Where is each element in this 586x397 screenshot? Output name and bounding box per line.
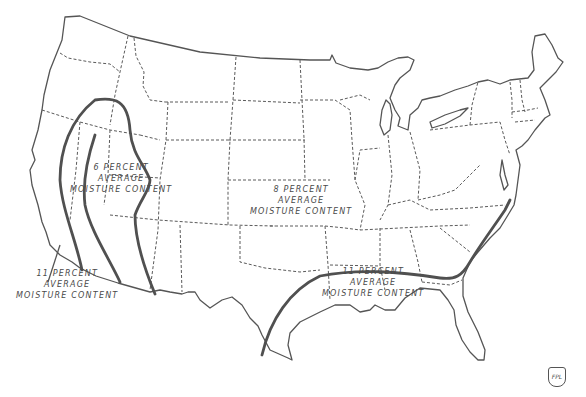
lake-michigan: [380, 100, 392, 135]
zone-boundary-coast: [84, 135, 120, 282]
zone-label-8-percent: 8 PERCENT AVERAGE MOISTURE CONTENT: [250, 184, 352, 217]
fpl-logo: FPL: [548, 367, 566, 387]
chesapeake: [500, 160, 508, 190]
zone-label-6-percent: 6 PERCENT AVERAGE MOISTURE CONTENT: [70, 162, 172, 195]
zone-label-11-percent-pacific: 11 PERCENT AVERAGE MOISTURE CONTENT: [16, 268, 118, 301]
lake-erie: [430, 108, 468, 128]
zone-label-11-percent-gulf: 11 PERCENT AVERAGE MOISTURE CONTENT: [322, 266, 424, 299]
zone-boundary-west: [60, 99, 155, 294]
